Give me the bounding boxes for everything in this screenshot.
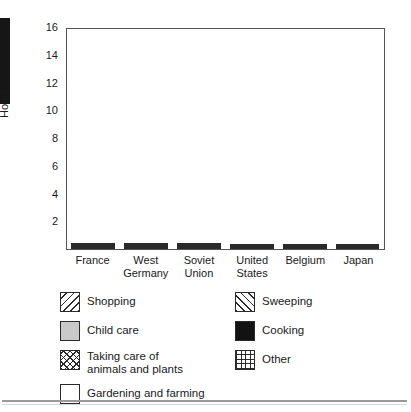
y-axis-tick-label: 4 <box>38 189 58 200</box>
legend-item-other: Other <box>235 350 385 375</box>
legend-item-animals-and-plants: Taking care of animals and plants <box>60 350 235 375</box>
y-axis-tick-label: 6 <box>38 161 58 172</box>
y-axis-tick-label: 10 <box>38 105 58 116</box>
legend-row: Taking care of animals and plants Other <box>60 350 390 375</box>
legend-label: Other <box>262 350 291 366</box>
y-axis-tick-label: 8 <box>38 133 58 144</box>
x-axis-label: Japan <box>332 254 385 280</box>
stacked-bar[interactable] <box>177 243 221 249</box>
bar-column[interactable] <box>331 29 384 249</box>
bar-column[interactable] <box>225 29 278 249</box>
stacked-bar[interactable] <box>336 244 380 249</box>
legend-item-shopping: Shopping <box>60 292 235 312</box>
x-axis-label: WestGermany <box>119 254 172 280</box>
stacked-bar[interactable] <box>124 243 168 249</box>
stacked-bar[interactable] <box>71 243 115 249</box>
legend-item-cooking: Cooking <box>235 321 385 341</box>
bar-column[interactable] <box>120 29 173 249</box>
y-axis-title: Hours <box>0 89 10 118</box>
x-axis-label-group: FranceWestGermanySovietUnionUnitedStates… <box>66 254 385 280</box>
legend-label: Cooking <box>262 321 304 337</box>
stacked-bar-group <box>67 29 384 249</box>
page-divider-rule <box>2 400 407 402</box>
y-axis-tick-group: 161412108642 <box>38 22 66 256</box>
child-care-swatch-icon <box>60 321 80 341</box>
chart-plot-area <box>66 28 385 250</box>
x-axis-label: France <box>66 254 119 280</box>
legend-item-sweeping: Sweeping <box>235 292 385 312</box>
cooking-swatch-icon <box>235 321 255 341</box>
y-axis-tick-label: 2 <box>38 216 58 227</box>
sweeping-swatch-icon <box>235 292 255 312</box>
stacked-bar[interactable] <box>283 244 327 249</box>
legend-label: Taking care of animals and plants <box>87 350 183 375</box>
bar-column[interactable] <box>278 29 331 249</box>
legend-item-child-care: Child care <box>60 321 235 341</box>
legend-label: Child care <box>87 321 139 337</box>
chart-legend: Shopping Sweeping Child care Cooking Tak… <box>60 292 390 412</box>
bar-segment-cooking[interactable] <box>125 248 167 249</box>
legend-row: Child care Cooking <box>60 321 390 341</box>
other-swatch-icon <box>235 350 255 370</box>
bar-segment-cooking[interactable] <box>284 248 326 249</box>
bar-segment-cooking[interactable] <box>72 248 114 249</box>
x-axis-label: Belgium <box>279 254 332 280</box>
legend-label: Gardening and farming <box>87 384 205 400</box>
legend-row: Shopping Sweeping <box>60 292 390 312</box>
y-axis-tick-label: 12 <box>38 78 58 89</box>
legend-label-line1: Taking care of <box>87 350 159 362</box>
bar-segment-cooking[interactable] <box>337 248 379 249</box>
stacked-bar[interactable] <box>230 244 274 249</box>
shopping-swatch-icon <box>60 292 80 312</box>
y-axis-tick-label: 16 <box>38 22 58 33</box>
bar-segment-cooking[interactable] <box>178 248 220 249</box>
legend-label-line2: animals and plants <box>87 363 183 375</box>
page-divider-rule-shadow <box>2 404 407 405</box>
legend-label: Sweeping <box>262 292 313 308</box>
x-axis-label: SovietUnion <box>172 254 225 280</box>
legend-label: Shopping <box>87 292 136 308</box>
bar-column[interactable] <box>173 29 226 249</box>
bar-segment-cooking[interactable] <box>231 248 273 249</box>
bar-column[interactable] <box>67 29 120 249</box>
animals-and-plants-swatch-icon <box>60 350 80 370</box>
x-axis-label: UnitedStates <box>226 254 279 280</box>
y-axis-tick-label: 14 <box>38 50 58 61</box>
